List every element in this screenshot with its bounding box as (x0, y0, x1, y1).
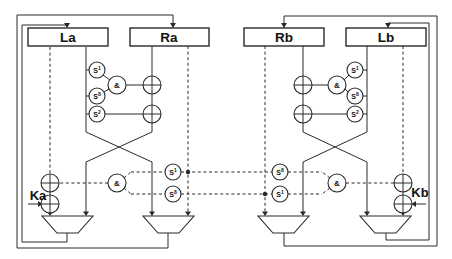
wire-s1-to-and-a (103, 75, 110, 80)
arrowhead-mux (262, 212, 268, 217)
arrowhead-mux (185, 212, 191, 217)
and-gate-mid-a-label: & (114, 179, 120, 188)
mux-b-right (360, 216, 411, 233)
xor-gate-a-2 (143, 105, 161, 123)
arrowhead-mux (83, 212, 89, 217)
arrowhead-mux (149, 212, 155, 217)
register-rb-label: Rb (275, 30, 293, 45)
mid-and-a-in-bottom (124, 188, 131, 194)
xor-gate-b-1 (294, 76, 312, 94)
mid-and-b-in-top (322, 172, 330, 178)
arrowhead-lb (385, 23, 391, 28)
mid-and-b-in-bottom (322, 188, 330, 194)
diagram-canvas: La Ra Rb Lb S1 S8 S2 & S1 S8 S2 & S1 S8 … (0, 0, 452, 259)
and-gate-a-label: & (114, 81, 120, 90)
and-gate-b-label: & (334, 81, 340, 90)
mux-a-left (42, 216, 93, 233)
arrowhead-mux (364, 212, 370, 217)
xor-gate-kb-2 (394, 195, 412, 213)
arrowhead-rb (281, 23, 287, 28)
and-gate-mid-b-label: & (334, 179, 340, 188)
feedback-wire-ra (17, 15, 173, 248)
arrowhead-mux (300, 212, 306, 217)
mid-and-a-in-top (124, 172, 131, 178)
wire-s8-to-and-b (345, 89, 348, 92)
mux-a-right (143, 216, 194, 233)
wire-s8-to-and-a (104, 89, 109, 92)
register-la-label: La (60, 30, 76, 45)
cipher-datapath-figure: La Ra Rb Lb S1 S8 S2 & S1 S8 S2 & S1 S8 … (0, 0, 452, 259)
register-ra-label: Ra (160, 30, 178, 45)
register-lb-label: Lb (378, 30, 395, 45)
junction-dot-right (263, 192, 267, 196)
xor-gate-kb-1 (394, 174, 412, 192)
mux-b-left (258, 216, 309, 233)
xor-gate-b-2 (294, 105, 312, 123)
xor-gate-a-1 (143, 76, 161, 94)
feedback-wire-rb (284, 16, 437, 246)
arrowhead-ra (170, 23, 176, 28)
key-label-kb: Kb (411, 185, 428, 200)
wire-s1-to-and-b (344, 75, 349, 80)
junction-dot-left (186, 170, 190, 174)
key-label-ka: Ka (30, 188, 47, 203)
